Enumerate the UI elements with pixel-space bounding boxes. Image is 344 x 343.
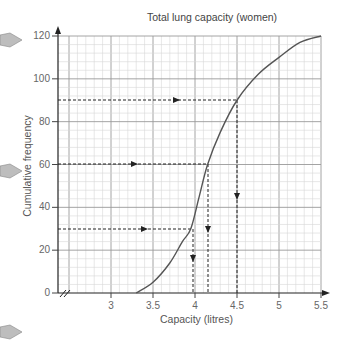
x-tick-label: 4.5 (222, 300, 252, 311)
margin-marker-icon (0, 33, 22, 47)
chart-canvas (0, 0, 344, 343)
x-axis-label: Capacity (litres) (160, 313, 233, 325)
x-tick-label: 5.5 (306, 300, 336, 311)
y-tick-label: 20 (20, 244, 50, 255)
x-tick-label: 4 (180, 300, 210, 311)
x-tick-label: 5 (264, 300, 294, 311)
y-tick-label: 60 (20, 159, 50, 170)
margin-marker-icon (0, 164, 22, 178)
y-tick-label: 40 (20, 201, 50, 212)
y-tick-label: 120 (20, 30, 50, 41)
x-tick-label: 3 (96, 300, 126, 311)
y-tick-label: 80 (20, 116, 50, 127)
y-tick-label: 100 (20, 73, 50, 84)
y-tick-label: 0 (20, 287, 50, 298)
x-tick-label: 3.5 (138, 300, 168, 311)
margin-marker-icon (0, 325, 22, 339)
